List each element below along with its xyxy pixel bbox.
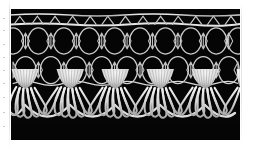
page-root: White lace trim with honeycomb mesh net … [0, 0, 253, 150]
lace-illustration [11, 9, 240, 140]
left-scan-streak [9, 0, 10, 150]
lace-trim-photograph [11, 9, 240, 140]
right-scan-streak [241, 4, 242, 146]
